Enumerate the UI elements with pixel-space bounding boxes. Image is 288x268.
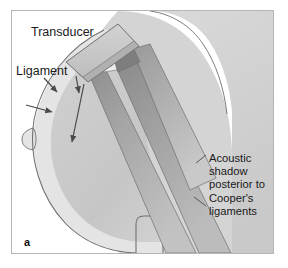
ligament-label: Ligament — [16, 64, 67, 79]
acoustic-shadow-label: Acoustic shadow posterior to Cooper's li… — [209, 152, 265, 218]
panel-letter: a — [24, 236, 30, 248]
figure-panel: Transducer Ligament Acoustic shadow post… — [0, 0, 288, 268]
nipple — [22, 128, 36, 150]
illustration-canvas — [0, 0, 288, 268]
transducer-label: Transducer — [31, 25, 94, 40]
